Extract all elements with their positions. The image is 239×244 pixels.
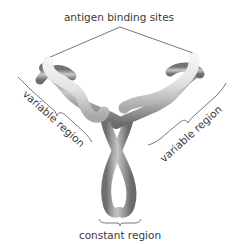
constant-region-brace bbox=[99, 219, 141, 226]
variable-region-right-label: variable region bbox=[157, 103, 224, 165]
antigen-binding-sites-label: antigen binding sites bbox=[64, 11, 174, 23]
antigen-binding-leader-line bbox=[48, 27, 193, 58]
antibody-diagram: antigen binding sites variable region va… bbox=[0, 0, 239, 244]
constant-region-label: constant region bbox=[79, 229, 161, 241]
